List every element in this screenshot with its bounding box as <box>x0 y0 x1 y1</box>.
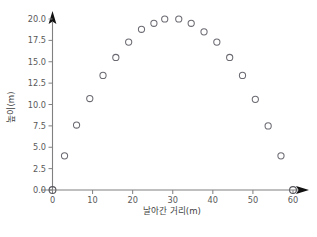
data-point-marker <box>87 95 93 101</box>
data-point-marker <box>239 72 245 78</box>
x-tick-label: 50 <box>248 195 258 205</box>
y-tick-label: 15.0 <box>28 57 46 67</box>
data-point-marker <box>265 123 271 129</box>
x-axis-ticks: 0102030405060 <box>50 190 298 205</box>
x-tick-label: 30 <box>168 195 178 205</box>
data-point-marker <box>214 39 220 45</box>
y-tick-label: 5.0 <box>33 142 46 152</box>
y-tick-label: 7.5 <box>33 121 46 131</box>
y-tick-label: 17.5 <box>28 35 46 45</box>
data-point-marker <box>151 20 157 26</box>
projectile-trajectory-plot: 0.02.55.07.510.012.515.017.520.0 0102030… <box>0 0 317 237</box>
data-point-marker <box>227 54 233 60</box>
data-point-marker <box>100 72 106 78</box>
data-point-marker <box>73 122 79 128</box>
data-point-marker <box>278 153 284 159</box>
data-point-marker <box>176 16 182 22</box>
data-point-group <box>61 16 284 159</box>
data-point-marker <box>126 39 132 45</box>
x-tick-label: 0 <box>50 195 55 205</box>
data-point-marker <box>201 29 207 35</box>
x-tick-label: 40 <box>208 195 218 205</box>
data-point-marker <box>188 20 194 26</box>
x-tick-label: 20 <box>127 195 137 205</box>
y-tick-label: 0.0 <box>33 185 46 195</box>
x-tick-label: 10 <box>87 195 97 205</box>
x-tick-label: 60 <box>288 195 298 205</box>
data-point-marker <box>113 54 119 60</box>
data-point-marker <box>252 96 258 102</box>
data-point-marker <box>61 153 67 159</box>
figure-caption <box>0 226 317 237</box>
x-axis-title: 날아간 거리(m) <box>143 206 201 216</box>
y-tick-label: 20.0 <box>28 14 46 24</box>
y-tick-label: 2.5 <box>33 164 46 174</box>
scatter-chart-figure: 0.02.55.07.510.012.515.017.520.0 0102030… <box>0 0 317 237</box>
y-axis-ticks: 0.02.55.07.510.012.515.017.520.0 <box>28 14 53 195</box>
data-point-marker <box>162 16 168 22</box>
data-point-marker <box>138 26 144 32</box>
y-tick-label: 12.5 <box>28 78 46 88</box>
y-tick-label: 10.0 <box>28 100 46 110</box>
y-axis-title: 높이(m) <box>6 91 16 122</box>
